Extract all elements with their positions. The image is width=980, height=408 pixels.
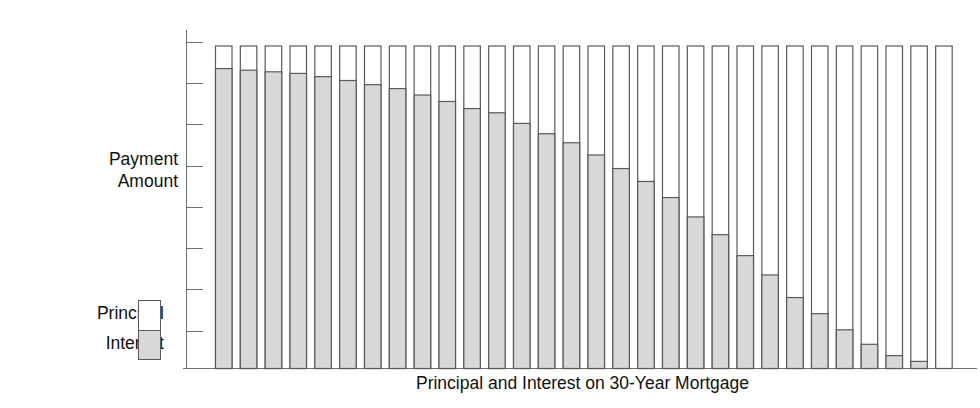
bar-segment-interest <box>911 361 928 368</box>
bar-segment-interest <box>638 181 655 368</box>
bar-segment-interest <box>712 235 729 369</box>
bar-segment-interest <box>414 95 431 368</box>
bar-segment-interest <box>240 70 257 368</box>
bar-segment-interest <box>886 356 903 369</box>
bar-segment-interest <box>563 143 580 369</box>
bar-segment-interest <box>861 344 878 368</box>
bar-segment-interest <box>836 330 853 369</box>
legend-swatch-principal <box>138 300 161 360</box>
bar-segment-interest <box>663 198 680 369</box>
bar-segment-interest <box>762 275 779 369</box>
bar-segment-principal <box>861 46 878 369</box>
bar-segment-interest <box>365 85 382 369</box>
bar-segment-principal <box>886 46 903 369</box>
bar-segment-interest <box>389 89 406 369</box>
bar-segment-interest <box>315 77 332 369</box>
bar-segment-principal <box>836 46 853 369</box>
bar-segment-interest <box>290 73 307 368</box>
bar-segment-interest <box>265 72 282 369</box>
legend-swatch-interest <box>139 330 160 359</box>
bar-segment-interest <box>737 256 754 369</box>
chart-page: Payment Amount Principal Interest Princi… <box>0 0 980 408</box>
bar-segment-interest <box>588 155 605 369</box>
bar-segment-interest <box>514 123 531 368</box>
x-axis-label: Principal and Interest on 30-Year Mortga… <box>185 372 980 394</box>
bar-segment-interest <box>439 101 456 368</box>
chart-bars <box>216 46 953 369</box>
bar-segment-interest <box>489 113 506 369</box>
bar-segment-interest <box>216 69 233 369</box>
bar-segment-interest <box>787 298 804 369</box>
bar-segment-interest <box>613 169 630 369</box>
bar-segment-interest <box>340 81 357 369</box>
bar-segment-interest <box>464 109 481 369</box>
bar-segment-principal <box>936 46 953 369</box>
bar-segment-principal <box>911 46 928 369</box>
bar-segment-interest <box>687 217 704 369</box>
bar-segment-interest <box>538 134 555 369</box>
bar-segment-interest <box>812 314 829 369</box>
